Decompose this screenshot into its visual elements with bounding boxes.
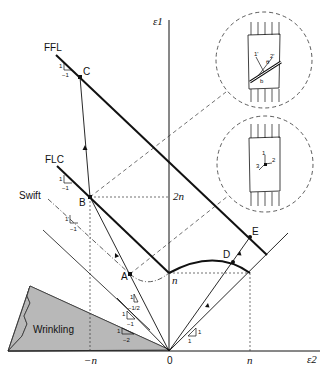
y-tick-n: n (172, 274, 178, 286)
point-d (231, 260, 235, 264)
slope-one-run: −1 (127, 321, 135, 327)
x-tick-n: n (247, 354, 253, 366)
y-axis-label: ε1 (153, 15, 163, 27)
slope-flc-rise: 1 (59, 176, 63, 182)
point-c (78, 75, 82, 79)
flc-line (57, 166, 169, 273)
label-ffl: FFL (44, 42, 62, 53)
inset-upper-shear-band: 1' 2' θ b (216, 12, 312, 108)
y-tick-2n: 2n (173, 190, 185, 202)
label-wrinkling: Wrinkling (33, 324, 74, 335)
slope-half-run: −1/2 (128, 305, 141, 311)
slope-biax-run: 1 (188, 338, 192, 344)
point-a (128, 272, 132, 276)
slope-two-run: −2 (123, 337, 131, 343)
label-point-c: C (83, 66, 90, 77)
label-swift: Swift (19, 190, 41, 201)
slope-ffl-rise: 1 (59, 63, 63, 69)
slope-ffl-run: −1 (62, 72, 70, 78)
swift-line (48, 199, 130, 274)
x-tick-zero: 0 (167, 355, 173, 366)
slope-swift-run: −1 (70, 226, 78, 232)
slope-flc-run: −1 (62, 185, 70, 191)
slope-one-rise: 1 (122, 311, 126, 317)
inset-upper-label-2p: 2' (270, 53, 274, 59)
slope-half-rise: 1 (130, 294, 134, 300)
flc-curve-right (169, 261, 250, 274)
x-tick-neg-n: −n (84, 354, 97, 366)
label-flc: FLC (45, 154, 64, 165)
label-point-d: D (223, 249, 230, 260)
diagram-canvas: 1 −1 1 −1 1 −1 1 −1/2 1 −1 1 −2 1 1 FFL … (0, 0, 331, 373)
label-point-a: A (121, 271, 128, 282)
point-b (88, 195, 92, 199)
slope-biax-rise: 1 (198, 329, 202, 335)
label-point-e: E (252, 226, 259, 237)
inset-upper-label-1p: 1' (254, 51, 258, 57)
x-axis-label: ε2 (307, 353, 317, 365)
slope-swift-rise: 1 (65, 216, 69, 222)
label-point-b: B (79, 197, 86, 208)
inset-lower-necking: 1 2 3 (217, 116, 313, 212)
forming-limit-diagram: 1 −1 1 −1 1 −1 1 −1/2 1 −1 1 −2 1 1 FFL … (0, 0, 331, 373)
